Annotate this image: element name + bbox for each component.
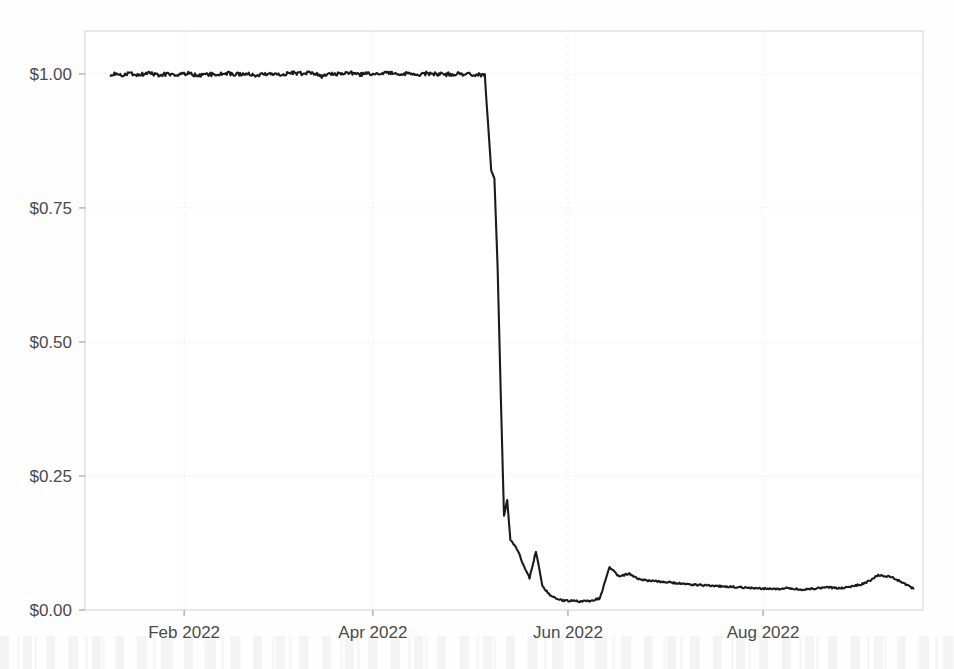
price-line-chart: $0.00$0.25$0.50$0.75$1.00 Feb 2022Apr 20… — [0, 0, 954, 669]
x-tick-label: Apr 2022 — [338, 623, 407, 642]
x-axis-ticks: Feb 2022Apr 2022Jun 2022Aug 2022 — [148, 610, 799, 642]
x-tick-label: Aug 2022 — [727, 623, 800, 642]
y-tick-label: $1.00 — [29, 65, 72, 84]
x-tick-label: Jun 2022 — [533, 623, 603, 642]
y-axis-ticks: $0.00$0.25$0.50$0.75$1.00 — [29, 65, 85, 620]
y-tick-label: $0.50 — [29, 333, 72, 352]
plot-background — [85, 31, 923, 610]
y-tick-label: $0.00 — [29, 601, 72, 620]
x-tick-label: Feb 2022 — [148, 623, 220, 642]
y-tick-label: $0.75 — [29, 199, 72, 218]
y-tick-label: $0.25 — [29, 467, 72, 486]
chart-figure: $0.00$0.25$0.50$0.75$1.00 Feb 2022Apr 20… — [0, 0, 954, 669]
